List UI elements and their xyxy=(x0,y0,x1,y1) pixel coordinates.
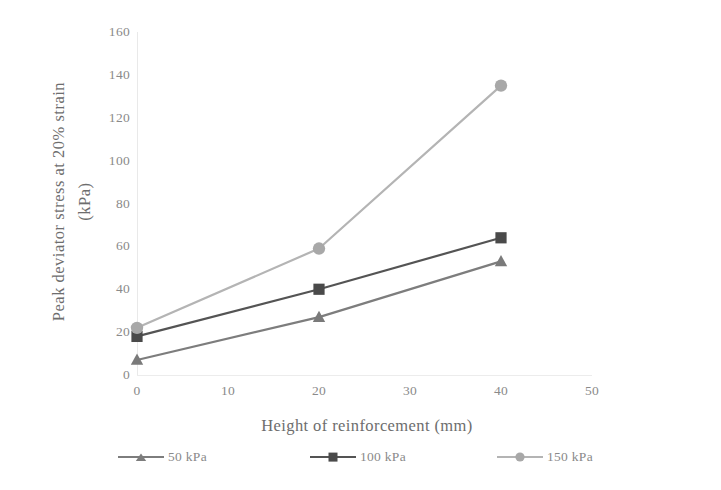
legend-item-50kpa[interactable]: 50 kPa xyxy=(118,449,207,465)
y-axis-title-line1: Peak deviator stress at 20% strain xyxy=(46,12,72,392)
y-tick-label: 80 xyxy=(84,196,130,212)
legend-label-150kpa: 150 kPa xyxy=(547,449,593,465)
x-tick-label: 0 xyxy=(117,383,157,399)
x-tick-label: 50 xyxy=(572,383,612,399)
data-point-marker-square xyxy=(313,284,324,295)
y-axis-line xyxy=(137,32,138,376)
legend-marker-triangle-icon xyxy=(118,450,164,464)
y-tick-label: 60 xyxy=(84,238,130,254)
y-axis-tick-labels: 020406080100120140160 xyxy=(80,0,130,490)
data-point-marker-triangle xyxy=(495,255,507,266)
legend-label-50kpa: 50 kPa xyxy=(168,449,207,465)
x-tick-label: 40 xyxy=(481,383,521,399)
legend-item-150kpa[interactable]: 150 kPa xyxy=(497,449,593,465)
chart-legend: 50 kPa 100 kPa 150 kPa xyxy=(0,449,721,475)
legend-item-100kpa[interactable]: 100 kPa xyxy=(310,449,406,465)
data-point-marker-circle xyxy=(313,242,325,254)
chart-container: Peak deviator stress at 20% strain (kPa)… xyxy=(0,0,721,490)
y-tick-label: 20 xyxy=(84,324,130,340)
legend-marker-square-icon xyxy=(310,450,356,464)
x-axis-title: Height of reinforcement (mm) xyxy=(137,416,597,436)
y-tick-label: 100 xyxy=(84,153,130,169)
x-tick-label: 20 xyxy=(299,383,339,399)
series-line-50-kpa xyxy=(137,261,501,360)
x-tick-label: 30 xyxy=(390,383,430,399)
y-tick-label: 140 xyxy=(84,67,130,83)
legend-marker-circle-icon xyxy=(497,450,543,464)
data-point-marker-circle xyxy=(495,79,507,91)
y-tick-label: 40 xyxy=(84,281,130,297)
data-point-marker-square xyxy=(495,232,506,243)
y-tick-label: 0 xyxy=(84,367,130,383)
x-tick-label: 10 xyxy=(208,383,248,399)
series-line-150-kpa xyxy=(137,86,501,328)
legend-label-100kpa: 100 kPa xyxy=(360,449,406,465)
series-line-100-kpa xyxy=(137,238,501,337)
y-tick-label: 120 xyxy=(84,110,130,126)
data-point-marker-triangle xyxy=(313,311,325,322)
y-tick-label: 160 xyxy=(84,24,130,40)
x-axis-line xyxy=(137,375,592,376)
